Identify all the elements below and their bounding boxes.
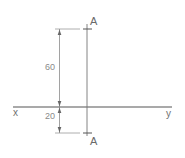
point-label-bottom: A <box>90 136 97 147</box>
axis-label-y: y <box>166 109 171 119</box>
arrowhead-up-icon <box>58 108 62 114</box>
axis-label-x: x <box>13 108 18 118</box>
orthographic-projection-diagram: A A 60 20 x y <box>0 0 185 158</box>
arrowhead-down-icon <box>58 127 62 133</box>
point-label-top: A <box>90 16 97 27</box>
dimension-label-upper: 60 <box>45 63 55 72</box>
arrowhead-down-icon <box>58 101 62 107</box>
arrowhead-up-icon <box>58 30 62 36</box>
dimension-label-lower: 20 <box>45 112 55 121</box>
